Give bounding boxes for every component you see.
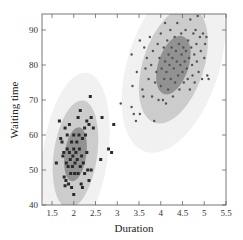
data-point (181, 71, 183, 73)
data-point (157, 99, 159, 101)
data-point (173, 36, 175, 38)
data-point (133, 113, 135, 115)
data-point (203, 57, 205, 59)
data-point (197, 71, 199, 73)
data-point (180, 53, 182, 55)
data-point (85, 151, 88, 154)
data-point (157, 43, 159, 45)
data-point (187, 78, 189, 80)
data-point (82, 162, 85, 165)
data-point (76, 158, 79, 161)
data-point (144, 67, 146, 69)
data-point (79, 109, 82, 112)
data-point (71, 155, 74, 158)
data-point (151, 95, 153, 97)
data-point (206, 74, 208, 76)
data-point (99, 158, 102, 161)
data-point (61, 141, 64, 144)
data-point (160, 85, 162, 87)
data-point (164, 60, 166, 62)
data-point (185, 50, 187, 52)
data-point (75, 141, 78, 144)
data-point (139, 39, 141, 41)
data-point (61, 155, 64, 158)
data-point (197, 15, 199, 17)
data-point (72, 134, 75, 137)
data-point (85, 120, 88, 123)
data-point (143, 46, 145, 48)
data-point (67, 183, 70, 186)
data-point (87, 123, 90, 126)
data-point (170, 46, 172, 48)
data-point (191, 74, 193, 76)
data-point (58, 120, 61, 123)
data-point (163, 46, 165, 48)
data-point (147, 78, 149, 80)
data-point (207, 78, 209, 80)
data-point (158, 57, 160, 59)
x-tick-label: 1.5 (46, 208, 58, 218)
confidence-ellipses (32, 0, 243, 240)
data-point (77, 134, 80, 137)
data-point (59, 137, 62, 140)
data-point (164, 22, 166, 24)
data-point (112, 123, 115, 126)
gmm-scatter-chart: 1.522.533.544.555.5 405060708090 Duratio… (0, 0, 243, 240)
data-point (165, 71, 167, 73)
data-point (180, 32, 182, 34)
data-point (92, 127, 95, 130)
data-point (77, 172, 80, 175)
data-point (192, 32, 194, 34)
data-point (189, 88, 191, 90)
x-tick-label: 4 (159, 208, 164, 218)
data-point (165, 102, 167, 104)
x-tick-label: 4.5 (177, 208, 189, 218)
x-axis-label: Duration (114, 222, 154, 234)
data-point (110, 151, 113, 154)
data-point (72, 193, 75, 196)
y-tick-label: 40 (29, 200, 39, 210)
data-point (89, 95, 92, 98)
data-point (154, 81, 156, 83)
data-point (149, 36, 151, 38)
data-point (187, 39, 189, 41)
data-point (68, 151, 71, 154)
data-point (183, 60, 185, 62)
data-point (194, 29, 196, 31)
data-point (69, 172, 72, 175)
data-point (101, 116, 104, 119)
data-point (74, 151, 77, 154)
data-point (64, 127, 67, 130)
data-point (184, 29, 186, 31)
data-point (78, 148, 81, 151)
data-point (186, 67, 188, 69)
data-point (182, 46, 184, 48)
data-point (205, 36, 207, 38)
data-point (193, 81, 195, 83)
data-point (201, 78, 203, 80)
data-point (170, 78, 172, 80)
data-point (175, 50, 177, 52)
data-point (188, 57, 190, 59)
data-point (176, 60, 178, 62)
data-point (169, 29, 171, 31)
data-point (65, 162, 68, 165)
data-point (204, 43, 206, 45)
y-tick-label: 80 (29, 60, 39, 70)
data-point (166, 39, 168, 41)
data-point (66, 134, 69, 137)
x-tick-label: 5 (202, 208, 207, 218)
data-point (68, 123, 71, 126)
data-point (139, 113, 141, 115)
data-point (77, 116, 80, 119)
y-tick-label: 60 (29, 130, 39, 140)
data-point (86, 169, 89, 172)
x-tick-label: 3.5 (133, 208, 145, 218)
y-tick-label: 50 (29, 165, 39, 175)
data-point (177, 74, 179, 76)
data-point (142, 95, 144, 97)
data-point (62, 151, 65, 154)
data-point (200, 50, 202, 52)
y-tick-label: 90 (29, 25, 39, 35)
data-point (69, 158, 72, 161)
